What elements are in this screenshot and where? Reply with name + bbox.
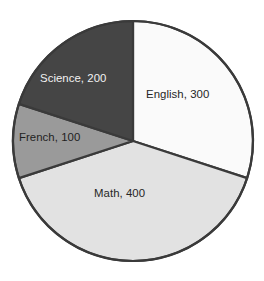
pie-chart: English, 300 Math, 400 French, 100 Scien… [0,0,264,281]
slice-label-math: Math, 400 [94,187,145,199]
slice-label-french: French, 100 [19,131,80,143]
slice-label-science: Science, 200 [40,72,106,84]
slice-label-english: English, 300 [146,88,209,100]
pie-chart-canvas: English, 300 Math, 400 French, 100 Scien… [0,0,264,281]
